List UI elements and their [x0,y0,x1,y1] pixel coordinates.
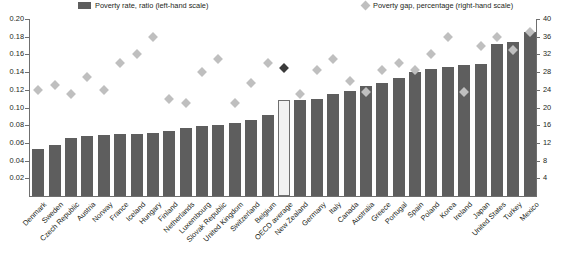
bar-sweden [49,145,61,196]
category-label-czech-republic: Czech Republic [38,200,81,243]
bar-canada [344,91,356,196]
bar-switzerland [245,120,257,196]
right-tick-label: 40 [543,15,551,22]
legend-label-poverty-rate: Poverty rate, ratio (left-hand scale) [95,1,208,10]
right-tick [536,37,540,38]
category-label-united-kingdom: United Kingdom [201,200,245,244]
bar-czech-republic [65,138,77,196]
left-tick-label: 0.10 [2,104,24,111]
right-tick-label: 8 [543,157,547,164]
right-tick [536,90,540,91]
left-tick [25,19,29,20]
left-tick [25,37,29,38]
left-tick [25,72,29,73]
left-tick-label: 0.18 [2,33,24,40]
diamond-united-states [492,32,502,42]
category-label-spain: Spain [406,200,426,220]
right-tick-label: 20 [543,104,551,111]
right-tick [536,72,540,73]
category-label-poland: Poland [419,200,442,223]
bar-united-states [491,44,503,196]
diamond-switzerland [246,78,256,88]
category-label-italy: Italy [327,200,343,216]
right-tick [536,19,540,20]
category-label-korea: Korea [438,200,458,220]
left-tick-label: 0.12 [2,86,24,93]
right-tick-label: 12 [543,139,551,146]
category-label-australia: Australia [349,200,376,227]
left-tick-label: 0.02 [2,174,24,181]
bar-korea [442,67,454,196]
diamond-oecd-average [279,63,289,73]
poverty-chart: Poverty rate, ratio (left-hand scale) Po… [0,0,579,270]
diamond-canada [345,76,355,86]
bar-portugal [393,78,405,196]
left-tick [25,143,29,144]
category-label-new-zealand: New Zealand [273,200,310,237]
diamond-sweden [50,80,60,90]
bar-turkey [507,42,519,196]
category-label-germany: Germany [300,200,328,228]
legend-item-poverty-gap: Poverty gap, percentage (right-hand scal… [362,1,513,10]
diamond-poland [427,49,437,59]
bar-hungary [147,133,159,196]
right-tick [536,54,540,55]
left-tick-label: 0.16 [2,50,24,57]
right-tick-label: 32 [543,50,551,57]
category-label-slovak-republic: Slovak Republic [185,200,229,244]
category-label-ireland: Ireland [452,200,474,222]
category-label-mexico: Mexico [518,200,541,223]
category-label-austria: Austria [75,200,98,223]
left-tick-label: 0.06 [2,139,24,146]
right-tick [536,125,540,126]
category-label-netherlands: Netherlands [161,200,196,235]
bar-greece [376,83,388,196]
right-tick [536,161,540,162]
left-tick-label: 0.14 [2,68,24,75]
left-axis-line [29,19,30,196]
bar-norway [98,135,110,196]
right-tick [536,143,540,144]
legend-label-poverty-gap: Poverty gap, percentage (right-hand scal… [373,1,513,10]
diamond-united-kingdom [230,98,240,108]
category-label-luxembourg: Luxembourg [177,200,212,235]
category-label-denmark: Denmark [21,200,49,228]
right-tick [536,108,540,109]
bar-australia [360,86,372,196]
left-tick [25,108,29,109]
diamond-portugal [394,58,404,68]
right-tick-label: 16 [543,121,551,128]
right-tick-label: 4 [543,174,547,181]
bottom-axis-line [29,196,537,197]
diamond-italy [328,54,338,64]
bar-netherlands [180,128,192,196]
category-label-iceland: Iceland [123,200,146,223]
category-label-finland: Finland [156,200,180,224]
category-label-canada: Canada [335,200,360,225]
left-tick-label: 0.04 [2,157,24,164]
diamond-austria [82,72,92,82]
bar-japan [475,64,487,196]
diamond-germany [312,65,322,75]
diamond-iceland [132,49,142,59]
diamond-korea [443,32,453,42]
bar-belgium [262,115,274,196]
diamond-netherlands [181,98,191,108]
category-label-belgium: Belgium [252,200,277,225]
bar-swatch-icon [78,2,91,9]
bar-ireland [458,65,470,196]
category-label-hungary: Hungary [137,200,163,226]
bar-france [114,134,126,196]
plot-area: 0.200.180.160.140.120.100.080.060.040.02… [29,19,537,196]
left-tick [25,161,29,162]
category-label-sweden: Sweden [39,200,64,225]
left-tick-label: 0.20 [2,15,24,22]
bar-oecd-average [278,100,290,196]
bar-austria [81,136,93,196]
diamond-france [115,58,125,68]
right-tick [536,178,540,179]
diamond-czech-republic [66,89,76,99]
bar-slovak-republic [212,125,224,196]
category-label-turkey: Turkey [502,200,524,222]
category-label-united-states: United States [470,200,508,238]
